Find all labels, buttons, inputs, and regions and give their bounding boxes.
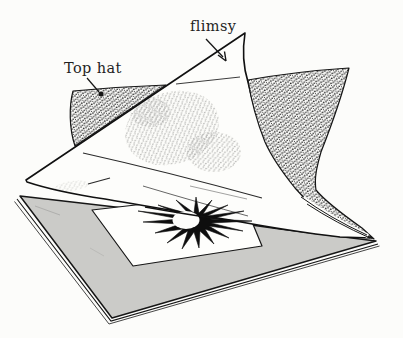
illustration-canvas: Top hat flimsy: [0, 0, 403, 338]
top-hat-leader-dot: [99, 92, 104, 97]
flimsy-label: flimsy: [190, 18, 237, 34]
top-hat-label: Top hat: [64, 60, 122, 76]
illustration-page: Top hat flimsy: [0, 0, 403, 338]
